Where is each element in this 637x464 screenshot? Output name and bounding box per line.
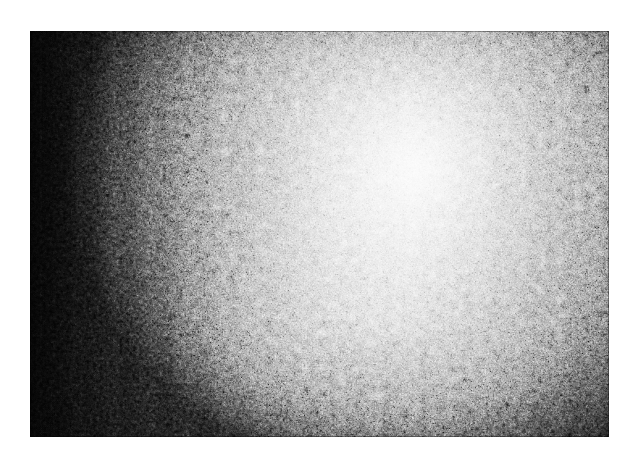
grayscale-speckle-micrograph <box>30 31 609 437</box>
margin-left <box>0 0 30 464</box>
illumination-vertical-falloff <box>30 31 609 437</box>
margin-right <box>609 0 637 464</box>
margin-top <box>0 0 637 31</box>
margin-bottom <box>0 437 637 464</box>
page-canvas <box>0 0 637 464</box>
